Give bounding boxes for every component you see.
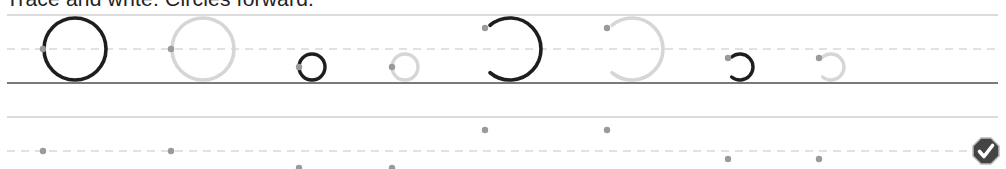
start-dots [40, 25, 822, 169]
start-dot [816, 156, 822, 162]
guide-lines [7, 15, 998, 151]
check-octagon-icon [972, 137, 1000, 165]
start-dot [482, 25, 488, 31]
start-dot [40, 46, 46, 52]
writing-sheet[interactable] [0, 0, 1006, 169]
start-dot [168, 46, 174, 52]
start-dot [725, 55, 731, 61]
check-button[interactable] [972, 137, 1000, 165]
start-dot [816, 55, 822, 61]
start-dot [296, 64, 302, 70]
start-dot [296, 165, 302, 169]
start-dot [389, 165, 395, 169]
arc-trace [823, 54, 844, 80]
start-dot [168, 148, 174, 154]
start-dot [725, 156, 731, 162]
arc-model [732, 54, 753, 80]
circle-trace [392, 54, 418, 80]
circle-model [299, 54, 325, 80]
start-dot [40, 148, 46, 154]
start-dot [604, 127, 610, 133]
start-dot [389, 64, 395, 70]
start-dot [482, 127, 488, 133]
start-dot [604, 25, 610, 31]
